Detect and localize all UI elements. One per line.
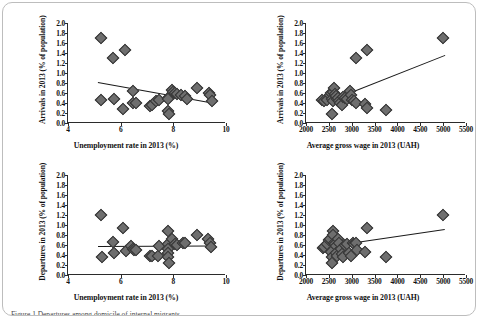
y-axis-tick-mark — [65, 205, 68, 206]
y-axis-tick-mark — [303, 185, 306, 186]
data-point — [360, 44, 373, 57]
y-axis-tick-mark — [303, 83, 306, 84]
data-point — [117, 221, 130, 234]
y-axis-tick-mark — [65, 103, 68, 104]
y-axis-tick-mark — [65, 265, 68, 266]
x-axis-tick-label: 2500 — [322, 277, 336, 286]
y-axis-tick-label: 0.4 — [294, 99, 303, 108]
x-axis-tick-mark — [375, 123, 376, 127]
x-axis-tick-label: 5500 — [459, 277, 473, 286]
y-axis-tick-mark — [303, 255, 306, 256]
x-axis-tick-mark — [173, 123, 174, 127]
y-axis-tick-mark — [65, 245, 68, 246]
y-axis-tick-label: 0.8 — [294, 231, 303, 240]
figure-caption: Figure 1 Departures among domicile of in… — [11, 311, 469, 316]
chart-panel-arrivals-vs-unemployment: 0.00.20.40.60.81.01.21.41.61.82.046810Ar… — [11, 9, 241, 159]
y-axis-tick-label: 0.0 — [56, 119, 65, 128]
y-axis-tick-label: 1.6 — [294, 39, 303, 48]
y-axis-tick-label: 0.6 — [56, 89, 65, 98]
x-axis-tick-mark — [352, 123, 353, 127]
y-axis-tick-label: 1.0 — [56, 221, 65, 230]
x-axis-tick-label: 8 — [172, 125, 176, 134]
x-axis-tick-mark — [443, 123, 444, 127]
y-axis-tick-mark — [303, 93, 306, 94]
x-axis-tick-mark — [466, 275, 467, 279]
y-axis-tick-label: 0.4 — [294, 251, 303, 260]
y-axis-tick-mark — [65, 93, 68, 94]
x-axis-tick-label: 10 — [223, 125, 230, 134]
x-axis-tick-mark — [306, 123, 307, 127]
y-axis-tick-label: 1.2 — [294, 59, 303, 68]
y-axis-tick-label: 1.2 — [56, 59, 65, 68]
x-axis-tick-label: 4000 — [390, 125, 404, 134]
data-point — [95, 31, 108, 44]
y-axis-tick-mark — [65, 235, 68, 236]
y-axis-tick-mark — [65, 255, 68, 256]
y-axis-tick-label: 0.8 — [56, 79, 65, 88]
x-axis-tick-label: 4 — [66, 277, 70, 286]
x-axis-tick-label: 5000 — [436, 125, 450, 134]
y-axis-tick-label: 1.4 — [56, 49, 65, 58]
y-axis-tick-mark — [303, 53, 306, 54]
y-axis-tick-label: 1.4 — [294, 201, 303, 210]
y-axis-tick-mark — [303, 23, 306, 24]
y-axis-tick-mark — [303, 175, 306, 176]
y-axis-tick-mark — [65, 225, 68, 226]
x-axis-tick-mark — [68, 275, 69, 279]
plot-area: 0.00.20.40.60.81.01.21.41.61.82.02000250… — [305, 175, 465, 275]
x-axis-tick-mark — [306, 275, 307, 279]
y-axis-tick-mark — [65, 195, 68, 196]
y-axis-tick-label: 0.2 — [294, 109, 303, 118]
y-axis-tick-label: 1.4 — [56, 201, 65, 210]
x-axis-tick-label: 4000 — [390, 277, 404, 286]
y-axis-tick-mark — [303, 205, 306, 206]
y-axis-tick-mark — [65, 185, 68, 186]
x-axis-tick-mark — [226, 123, 227, 127]
y-axis-tick-mark — [65, 113, 68, 114]
x-axis-tick-label: 4 — [66, 125, 70, 134]
y-axis-label: Departures in 2013 (% of population) — [38, 163, 47, 281]
figure-frame: 0.00.20.40.60.81.01.21.41.61.82.046810Ar… — [2, 2, 476, 316]
x-axis-tick-label: 3000 — [345, 125, 359, 134]
y-axis-tick-mark — [303, 113, 306, 114]
x-axis-tick-label: 2000 — [299, 277, 313, 286]
y-axis-tick-mark — [65, 83, 68, 84]
y-axis-tick-mark — [303, 245, 306, 246]
y-axis-tick-mark — [303, 103, 306, 104]
y-axis-tick-mark — [303, 225, 306, 226]
x-axis-tick-mark — [397, 275, 398, 279]
y-axis-tick-mark — [65, 63, 68, 64]
y-axis-tick-label: 1.4 — [294, 49, 303, 58]
y-axis-tick-label: 1.6 — [294, 191, 303, 200]
x-axis-tick-mark — [329, 275, 330, 279]
data-point — [437, 208, 450, 221]
x-axis-tick-label: 4500 — [413, 125, 427, 134]
y-axis-tick-mark — [303, 235, 306, 236]
x-axis-tick-mark — [121, 123, 122, 127]
chart-panel-arrivals-vs-wage: 0.00.20.40.60.81.01.21.41.61.82.02000250… — [249, 9, 476, 159]
x-axis-tick-label: 3500 — [368, 125, 382, 134]
y-axis-tick-mark — [65, 43, 68, 44]
x-axis-label: Average gross wage in 2013 (UAH) — [249, 141, 476, 150]
y-axis-tick-mark — [303, 33, 306, 34]
x-axis-tick-mark — [68, 123, 69, 127]
data-point — [118, 44, 131, 57]
data-point — [380, 104, 393, 117]
x-axis-tick-label: 5000 — [436, 277, 450, 286]
y-axis-tick-mark — [303, 265, 306, 266]
y-axis-tick-label: 0.2 — [294, 261, 303, 270]
y-axis-label: Departures in 2013 (% of population) — [276, 163, 285, 281]
y-axis-tick-label: 2.0 — [294, 171, 303, 180]
data-point — [437, 31, 450, 44]
data-point — [360, 221, 373, 234]
data-point — [106, 52, 119, 65]
x-axis-tick-mark — [329, 123, 330, 127]
x-axis-tick-label: 6 — [119, 277, 123, 286]
x-axis-tick-mark — [121, 275, 122, 279]
chart-panel-departures-vs-wage: 0.00.20.40.60.81.01.21.41.61.82.02000250… — [249, 163, 476, 311]
plot-area: 0.00.20.40.60.81.01.21.41.61.82.046810 — [67, 23, 225, 123]
y-axis-tick-mark — [65, 23, 68, 24]
x-axis-tick-label: 2500 — [322, 125, 336, 134]
data-point — [350, 52, 363, 65]
y-axis-tick-mark — [303, 195, 306, 196]
